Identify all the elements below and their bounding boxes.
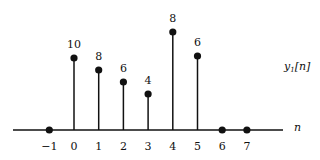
- stem-marker: [70, 54, 77, 61]
- value-label: 4: [145, 74, 152, 87]
- stem-marker: [169, 28, 176, 35]
- x-tick-label: 4: [169, 140, 176, 153]
- x-tick-label: 3: [145, 140, 152, 153]
- stem-marker: [120, 78, 127, 85]
- stem-plot: 1086486 −101234567 n y1[n]: [0, 0, 320, 160]
- stem-marker: [95, 66, 102, 73]
- x-axis-label: n: [294, 121, 301, 134]
- stem-marker: [145, 90, 152, 97]
- value-label: 6: [120, 62, 127, 75]
- value-label: 6: [194, 36, 201, 49]
- value-label: 10: [67, 38, 81, 51]
- stem-marker: [219, 126, 226, 133]
- series-label: y1[n]: [283, 60, 311, 74]
- stem-marker: [243, 126, 250, 133]
- value-label: 8: [169, 12, 176, 25]
- tick-labels: −101234567: [41, 140, 250, 153]
- stem-marker: [194, 52, 201, 59]
- x-tick-label: 0: [71, 140, 78, 153]
- x-tick-label: 7: [243, 140, 250, 153]
- x-tick-label: 5: [194, 140, 201, 153]
- stem-marker: [46, 126, 53, 133]
- x-tick-label: 1: [95, 140, 102, 153]
- value-label: 8: [95, 50, 102, 63]
- stems: 1086486: [46, 12, 251, 134]
- x-tick-label: −1: [41, 140, 57, 153]
- x-tick-label: 2: [120, 140, 127, 153]
- x-tick-label: 6: [219, 140, 226, 153]
